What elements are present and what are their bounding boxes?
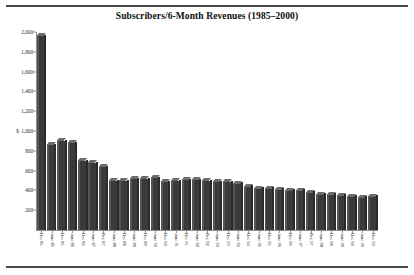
bar-slot [254, 32, 264, 230]
x-tick-label: June 90 [153, 233, 158, 247]
bar-slot [357, 32, 367, 230]
x-tick-slot: Dec 88 [119, 231, 129, 265]
bar-slot [191, 32, 201, 230]
bar-slot [88, 32, 98, 230]
bar-slot [77, 32, 87, 230]
y-tick-value: 1,400 [21, 88, 33, 94]
x-tick-slot: June 97 [295, 231, 305, 265]
bar-slot [202, 32, 212, 230]
bar-slot [305, 32, 315, 230]
bar [233, 183, 240, 230]
bar-slot [67, 32, 77, 230]
x-tick-label: Dec 85 [59, 233, 64, 246]
bar [161, 182, 168, 231]
x-tick-slot: June 99 [336, 231, 346, 265]
bar [57, 141, 64, 230]
bar [171, 181, 178, 231]
bar [78, 161, 85, 230]
x-tick-label: June 85 [49, 233, 54, 247]
x-axis-ticks: Dec 85June 85Dec 85June 86Dec 86June 87D… [36, 231, 378, 265]
x-tick-label: June 97 [298, 233, 303, 247]
y-tick-value: 800 [25, 148, 33, 154]
y-tick-value: 600 [25, 168, 33, 174]
bar-slot [98, 32, 108, 230]
bar [130, 179, 137, 230]
bar [358, 197, 365, 230]
x-tick-label: Dec 88 [122, 233, 127, 246]
bar-slot [264, 32, 274, 230]
x-tick-label: June 88 [111, 233, 116, 247]
bar [213, 182, 220, 231]
y-tick-value: 1,600 [21, 69, 33, 75]
x-tick-slot: June 96 [274, 231, 284, 265]
x-tick-slot: June 86 [67, 231, 77, 265]
bar [99, 167, 106, 230]
plot-area: 2,0001,8001,6001,4001,200$1,000800600400… [36, 32, 378, 230]
x-tick-label: June 96 [277, 233, 282, 247]
bar-slot [222, 32, 232, 230]
x-tick-label: June 89 [132, 233, 137, 247]
bar [223, 182, 230, 231]
x-tick-label: Dec 91 [184, 233, 189, 246]
y-tick-value: 1,800 [21, 49, 33, 55]
bar [316, 194, 323, 230]
x-tick-slot: Dec 97 [305, 231, 315, 265]
y-tick-value: 1,200 [21, 108, 33, 114]
bar-slot [285, 32, 295, 230]
bar [68, 143, 75, 230]
x-tick-slot: Dec 85 [57, 231, 67, 265]
bar-slot [150, 32, 160, 230]
bar [37, 36, 44, 230]
x-tick-slot: Dec 00 [368, 231, 378, 265]
x-tick-label: Dec 00 [370, 233, 375, 246]
bar-slot [347, 32, 357, 230]
x-tick-label: Dec 89 [142, 233, 147, 246]
x-tick-slot: June 91 [171, 231, 181, 265]
bar-slot [336, 32, 346, 230]
bar [192, 180, 199, 230]
bar [327, 194, 334, 230]
x-tick-slot: Dec 93 [222, 231, 232, 265]
bar [254, 188, 261, 230]
x-tick-label: Dec 87 [101, 233, 106, 246]
bar-slot [295, 32, 305, 230]
x-tick-slot: Dec 99 [347, 231, 357, 265]
bar-slot [46, 32, 56, 230]
bar-slot [140, 32, 150, 230]
x-tick-label: June 93 [215, 233, 220, 247]
x-tick-slot: June 93 [212, 231, 222, 265]
x-tick-label: Dec 97 [308, 233, 313, 246]
bar [140, 179, 147, 230]
bottom-rule [6, 266, 408, 268]
page-title: Subscribers/6-Month Revenues (1985–2000) [0, 11, 414, 21]
currency-symbol: $ [16, 128, 19, 134]
x-tick-label: Dec 95 [267, 233, 272, 246]
bar [109, 181, 116, 231]
bar-side-face [376, 195, 378, 230]
y-tick-value: 1,000 [21, 128, 33, 134]
x-tick-label: June 99 [339, 233, 344, 247]
bar [275, 189, 282, 230]
x-tick-slot: June 94 [233, 231, 243, 265]
bar-slot [171, 32, 181, 230]
x-tick-slot: Dec 85 [36, 231, 46, 265]
x-tick-label: June 87 [90, 233, 95, 247]
bar-slot [368, 32, 378, 230]
bar [151, 178, 158, 230]
x-tick-label: Dec 92 [204, 233, 209, 246]
x-tick-slot: June 87 [88, 231, 98, 265]
y-tick-value: 2,000 [21, 29, 33, 35]
x-tick-label: Dec 96 [287, 233, 292, 246]
x-tick-label: June 95 [256, 233, 261, 247]
bar-slot [274, 32, 284, 230]
bar-slot [109, 32, 119, 230]
bar-slot [181, 32, 191, 230]
x-tick-slot: Dec 87 [98, 231, 108, 265]
x-tick-slot: June 88 [109, 231, 119, 265]
y-tick-value: 400 [25, 187, 33, 193]
bar-slot [160, 32, 170, 230]
chart-figure: Subscribers/6-Month Revenues (1985–2000)… [0, 0, 414, 275]
bar-slot [57, 32, 67, 230]
x-tick-slot: Dec 95 [264, 231, 274, 265]
top-rule [6, 5, 408, 7]
